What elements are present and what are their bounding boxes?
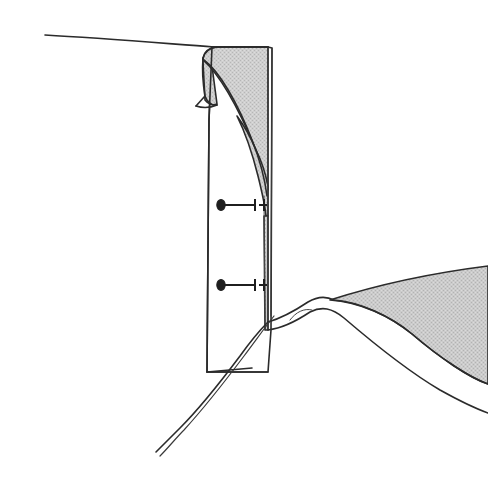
technical-illustration-svg — [0, 0, 488, 487]
illustration-canvas: Shirt front placket with folded facing a… — [0, 0, 488, 487]
